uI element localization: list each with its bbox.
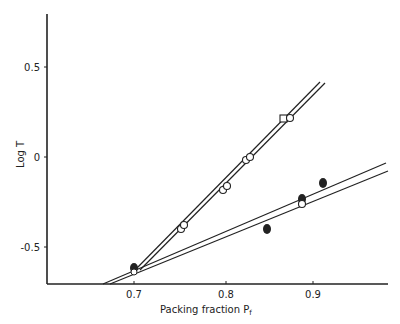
data-point-open [247,154,254,161]
x-tick-label: 0.9 [305,289,321,300]
data-point-open [131,269,137,275]
data-point-open-square [280,115,287,122]
x-tick-label: 0.7 [126,289,142,300]
fit-line-shallow-lower [110,171,388,284]
fit-line-steep [136,82,320,269]
data-point-filled [263,224,271,234]
y-tick-label: 0.5 [24,62,40,73]
x-axis-label: Packing fraction Pf [160,304,252,317]
data-point-filled [319,178,327,188]
data-point-open [299,201,306,208]
x-tick-label: 0.8 [218,289,234,300]
fit-line-shallow-upper [103,163,386,284]
chart-figure: 0.5 0 -0.5 0.7 0.8 0.9 Log T Packing fra… [0,0,400,324]
y-axis-label: Log T [15,140,26,168]
data-point-open [224,183,231,190]
y-tick-label: -0.5 [20,242,40,253]
y-tick-label: 0 [34,152,40,163]
data-point-open [287,115,294,122]
data-point-open [181,222,188,229]
fit-line-steep [140,83,325,270]
